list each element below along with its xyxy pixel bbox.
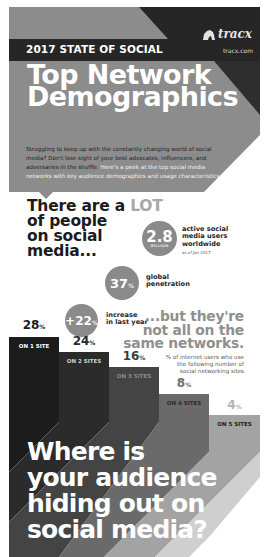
bar-value-unit: % bbox=[39, 323, 45, 330]
brand-url: tracx.com bbox=[223, 47, 253, 54]
stat-value: +22 bbox=[65, 314, 92, 328]
bar-value-unit: % bbox=[185, 381, 191, 388]
bar-value-number: 8 bbox=[177, 376, 185, 390]
bar-value-number: 28 bbox=[23, 318, 40, 332]
bar-value-number: 24 bbox=[73, 334, 90, 348]
bar-value-unit: % bbox=[89, 339, 95, 346]
lot-of-people-heading: There are a LOT of people on social medi… bbox=[27, 199, 163, 259]
bar-value-number: 4 bbox=[227, 398, 235, 412]
bar-category: ON 3 SITES bbox=[109, 373, 159, 379]
stat-circle-users: 2.8 BILLION bbox=[142, 221, 177, 256]
brand-name: tracx bbox=[218, 27, 252, 41]
headline-line: hiding out on bbox=[27, 491, 217, 517]
headline-line: social media? bbox=[27, 517, 217, 543]
bar-category: ON 5 SITES bbox=[209, 421, 260, 427]
bar-2-sites: ON 2 SITES bbox=[59, 352, 109, 372]
bar-1-site: ON 1 SITE bbox=[9, 337, 59, 357]
lot-line-4: media... bbox=[27, 244, 163, 259]
bar-value: 24% bbox=[59, 334, 109, 348]
bar-value-number: 16 bbox=[123, 349, 140, 363]
stat-label-line: worldwide bbox=[182, 241, 228, 248]
stat-label-users: active social media users worldwide bbox=[182, 226, 228, 248]
stat-label-penetration: global penetration bbox=[146, 274, 190, 289]
bar-value: 16% bbox=[109, 349, 159, 363]
bar-category: ON 1 SITE bbox=[9, 343, 59, 349]
stat-label-line: penetration bbox=[146, 281, 190, 288]
bar-category: ON 2 SITES bbox=[59, 358, 109, 364]
tracx-logo: tracx bbox=[202, 27, 252, 41]
stat-circle-growth: +22% bbox=[65, 304, 98, 337]
stat-circle-penetration: 37% bbox=[105, 266, 139, 300]
report-title: 2017 STATE OF SOCIAL bbox=[26, 43, 163, 55]
stat-unit: % bbox=[128, 282, 134, 289]
stat-value: 2.8 bbox=[146, 230, 173, 244]
stat-unit: BILLION bbox=[151, 244, 169, 248]
stat-note: as of Jan 2017 bbox=[182, 250, 211, 255]
page-title: Top Network Demographics bbox=[27, 64, 238, 108]
bar-value-unit: % bbox=[139, 354, 145, 361]
bar-category: ON 4 SITES bbox=[159, 400, 209, 406]
stat-value: 37 bbox=[110, 276, 128, 291]
bar-value: 4% bbox=[209, 398, 260, 412]
bar-5-sites: ON 5 SITES bbox=[209, 415, 260, 435]
bar-3-sites: ON 3 SITES bbox=[109, 367, 159, 387]
intro-paragraph: Struggling to keep up with the constantl… bbox=[26, 145, 226, 181]
bar-value-unit: % bbox=[236, 403, 242, 410]
infographic: 2017 STATE OF SOCIAL tracx.com tracx Top… bbox=[9, 7, 260, 557]
headline-line: Where is bbox=[27, 439, 217, 465]
bar-value: 8% bbox=[159, 376, 209, 390]
bar-value: 28% bbox=[9, 318, 59, 332]
lot-accent: LOT bbox=[130, 197, 162, 215]
title-line-2: Demographics bbox=[27, 86, 238, 108]
bar-4-sites: ON 4 SITES bbox=[159, 394, 209, 414]
headline-line: your audience bbox=[27, 465, 217, 491]
gorilla-icon bbox=[202, 29, 216, 40]
stat-unit: % bbox=[92, 319, 98, 326]
bottom-headline: Where is your audience hiding out on soc… bbox=[27, 439, 217, 543]
